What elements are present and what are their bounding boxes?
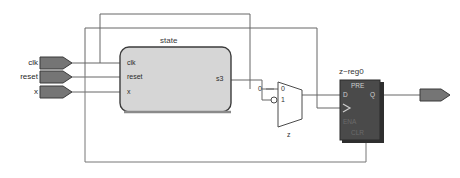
state-port-clk: clk	[127, 59, 136, 66]
wire-group-inputs	[72, 63, 120, 92]
mux-input-0-label: 0	[281, 85, 285, 92]
register-shadow-bottom	[342, 140, 384, 143]
state-port-reset: reset	[127, 73, 143, 80]
register-port-q: Q	[370, 92, 375, 99]
register-port-clr: CLR	[351, 130, 364, 137]
mux-input-1-label: 1	[281, 96, 285, 103]
register-port-pre: PRE	[351, 83, 364, 90]
state-port-x: x	[127, 88, 131, 95]
pin-shape-clk[interactable]	[40, 57, 72, 69]
mux-output-label: z	[287, 131, 291, 138]
pin-shape-output[interactable]	[420, 89, 450, 101]
wire-group-mux-out	[302, 88, 340, 108]
pin-shape-x[interactable]	[40, 86, 72, 98]
register-title: z~reg0	[339, 68, 364, 76]
input-label-x: x	[6, 88, 38, 96]
register-port-ena: ENA	[343, 119, 356, 126]
schematic-svg	[0, 0, 460, 178]
mux-invert-bubble-icon	[271, 97, 277, 103]
output-pin-shape[interactable]	[420, 89, 450, 101]
register-port-d: D	[343, 92, 348, 99]
input-label-clk: clk	[6, 59, 38, 67]
mux-select-label: 0	[258, 85, 262, 92]
input-label-reset: reset	[0, 73, 38, 81]
pin-shape-reset[interactable]	[40, 71, 72, 83]
wire-group-state-output	[231, 80, 278, 100]
state-port-s3: s3	[216, 75, 223, 82]
input-pin-shapes	[40, 57, 72, 98]
state-block-title: state	[160, 37, 177, 45]
register-shadow-right	[380, 82, 384, 142]
rtl-schematic-canvas: clk reset x state clk reset x s3 0 0 1 z…	[0, 0, 460, 178]
